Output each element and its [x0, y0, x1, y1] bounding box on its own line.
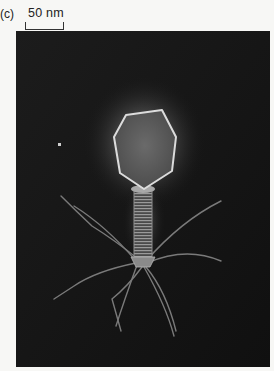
- scale-bar: [25, 22, 64, 30]
- phage-micrograph: [16, 31, 270, 367]
- scale-bar-label: 50 nm: [28, 6, 64, 20]
- panel-label: (c): [0, 7, 14, 21]
- speck: [58, 143, 61, 146]
- tail-sheath: [134, 189, 152, 259]
- phage-illustration: [16, 31, 270, 367]
